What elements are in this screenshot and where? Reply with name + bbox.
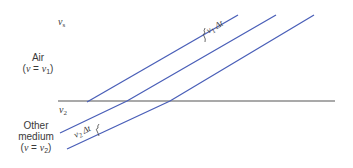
wavefront-3	[67, 15, 314, 149]
interface-sub: 2	[63, 109, 67, 117]
other-speed: (v = v2)	[16, 142, 56, 156]
air-eq: =	[30, 63, 41, 74]
refraction-diagram: vs Air (v = v1) v2 Other medium (v = v2)…	[0, 0, 353, 168]
label-air: Air (v = v1)	[20, 52, 56, 77]
label-interface-v2: v2	[59, 104, 67, 119]
air-speed: (v = v1)	[20, 63, 56, 77]
other-paren-close: )	[48, 142, 51, 153]
other-name-line2: medium	[16, 131, 56, 142]
vs-sub: s	[62, 21, 65, 29]
wavefront-2	[60, 15, 276, 133]
label-vs: vs	[58, 16, 65, 31]
air-paren-close: )	[50, 63, 53, 74]
other-name-line1: Other	[16, 120, 56, 131]
label-other-medium: Other medium (v = v2)	[16, 120, 56, 156]
other-eq: =	[28, 142, 39, 153]
air-name: Air	[20, 52, 56, 63]
